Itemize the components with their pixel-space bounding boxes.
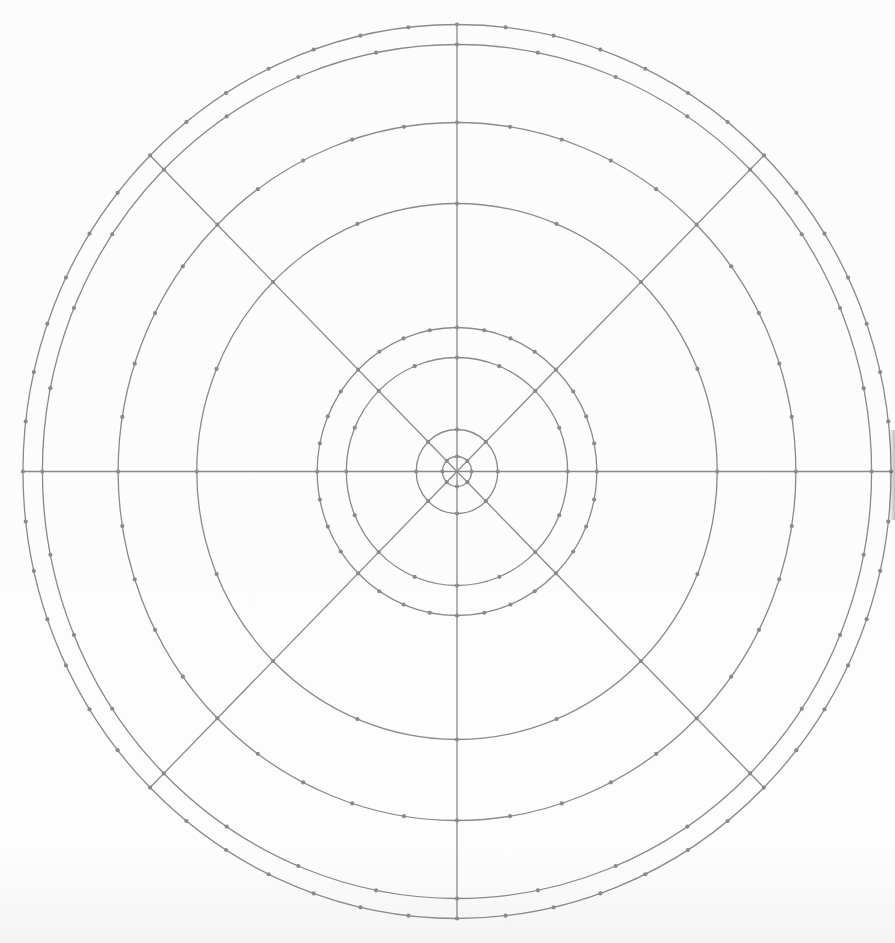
ring-dot <box>496 469 500 473</box>
ring-dot <box>571 389 575 393</box>
ring-dot <box>598 47 602 51</box>
ring-dot <box>715 469 719 473</box>
ring-dot <box>465 459 469 463</box>
ring-dot <box>153 311 157 315</box>
ring-dot <box>377 550 381 554</box>
ring-dot <box>870 469 874 473</box>
radial-line <box>457 472 764 788</box>
ring-dot <box>533 550 537 554</box>
ring-dot <box>116 469 120 473</box>
ring-dot <box>358 905 362 909</box>
ring-dot <box>116 748 120 752</box>
ring-dot <box>878 569 882 573</box>
ring-dot <box>312 47 316 51</box>
ring-dot <box>654 752 658 756</box>
ring-dot <box>148 153 152 157</box>
ring-dot <box>355 717 359 721</box>
ring-dot <box>153 628 157 632</box>
ring-dot <box>377 389 381 393</box>
ring-dot <box>878 370 882 374</box>
ring-dot <box>748 771 752 775</box>
radial-lines <box>23 25 891 919</box>
ring-dot <box>762 785 766 789</box>
ring-dot <box>110 232 114 236</box>
ring-dot <box>406 914 410 918</box>
ring-dot <box>551 34 555 38</box>
ring-dot <box>757 628 761 632</box>
ring-dot <box>356 571 360 575</box>
ring-dot <box>595 469 599 473</box>
edge-shadow <box>889 430 895 520</box>
ring-dot <box>455 583 459 587</box>
ring-dot <box>215 223 219 227</box>
ring-dot <box>862 553 866 557</box>
ring-dot <box>609 158 613 162</box>
ring-dot <box>800 232 804 236</box>
ring-dot <box>428 611 432 615</box>
ring-dot <box>413 364 417 368</box>
ring-dot <box>440 469 444 473</box>
ring-dot <box>267 872 271 876</box>
ring-dot <box>214 572 218 576</box>
ring-dot <box>584 414 588 418</box>
ring-dot <box>296 864 300 868</box>
ring-dot <box>426 499 430 503</box>
ring-dot <box>571 549 575 553</box>
ring-dot <box>455 22 459 26</box>
ring-dot <box>455 511 459 515</box>
ring-dot <box>482 611 486 615</box>
ring-dot <box>225 824 229 828</box>
ring-dot <box>120 415 124 419</box>
ring-dot <box>822 707 826 711</box>
ring-dot <box>312 891 316 895</box>
ring-dot <box>353 513 357 517</box>
ring-dot <box>536 888 540 892</box>
ring-dot <box>133 577 137 581</box>
ring-dot <box>401 602 405 606</box>
radial-line <box>150 472 457 788</box>
ring-dot <box>377 589 381 593</box>
ring-dot <box>413 575 417 579</box>
ring-dot <box>455 120 459 124</box>
ring-dot <box>48 386 52 390</box>
ring-dot <box>790 524 794 528</box>
ring-dot <box>794 191 798 195</box>
ring-dot <box>48 553 52 557</box>
ring-dot <box>536 51 540 55</box>
ring-dot <box>72 306 76 310</box>
ring-dot <box>469 469 473 473</box>
ring-dot <box>455 42 459 46</box>
ring-dot <box>339 389 343 393</box>
ring-dot <box>72 633 76 637</box>
ring-dot <box>551 905 555 909</box>
ring-dot <box>643 67 647 71</box>
ring-dot <box>215 716 219 720</box>
ring-dot <box>374 51 378 55</box>
ring-dot <box>326 414 330 418</box>
ring-dot <box>301 780 305 784</box>
ring-dot <box>846 663 850 667</box>
ring-dot <box>865 617 869 621</box>
ring-dot <box>224 848 228 852</box>
ring-dot <box>344 469 348 473</box>
ring-dot <box>162 167 166 171</box>
polar-grid-diagram <box>0 0 895 943</box>
ring-dot <box>377 350 381 354</box>
ring-dot <box>402 814 406 818</box>
ring-dot <box>554 571 558 575</box>
ring-dot <box>271 659 275 663</box>
ring-dot <box>686 91 690 95</box>
ring-dot <box>794 748 798 752</box>
ring-dot <box>695 716 699 720</box>
ring-dot <box>886 419 890 423</box>
radial-line <box>457 155 764 471</box>
ring-dot <box>838 633 842 637</box>
ring-dot <box>353 426 357 430</box>
ring-dot <box>445 459 449 463</box>
ring-dot <box>402 125 406 129</box>
ring-dot <box>24 519 28 523</box>
ring-dot <box>64 663 68 667</box>
ring-dot <box>455 613 459 617</box>
ring-dot <box>296 75 300 79</box>
ring-dot <box>455 454 459 458</box>
